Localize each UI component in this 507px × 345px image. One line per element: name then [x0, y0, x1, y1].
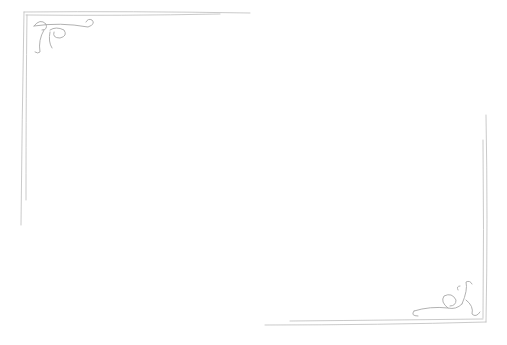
bottom-right-border: [265, 115, 487, 325]
bottom-right-flourish-icon: [413, 281, 480, 316]
top-left-flourish-icon: [34, 19, 93, 53]
decorative-frame: [0, 0, 507, 345]
top-left-border: [21, 12, 250, 225]
